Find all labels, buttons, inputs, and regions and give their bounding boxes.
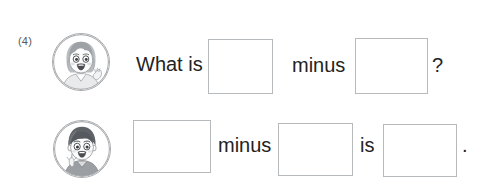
answer-box-row1-minuend[interactable] [208,39,273,94]
row1-question-mark: ? [432,55,443,75]
row1-lead-text: What is [136,54,203,74]
answer-box-row2-subtrahend[interactable] [278,123,353,176]
worksheet-exercise: (4) [0,0,495,194]
boy-face-avatar [53,120,111,178]
answer-box-row2-minuend[interactable] [133,120,211,173]
row2-operator-text: minus [218,135,271,155]
answer-box-row1-subtrahend[interactable] [355,38,428,94]
row1-operator-text: minus [292,55,345,75]
question-row-2: minus is . [0,118,495,180]
answer-box-row2-difference[interactable] [383,124,457,177]
question-row-1: What is minus ? [0,31,495,93]
row2-period-mark: . [462,135,468,155]
girl-face-avatar [52,33,110,91]
row2-copula-text: is [360,135,374,155]
